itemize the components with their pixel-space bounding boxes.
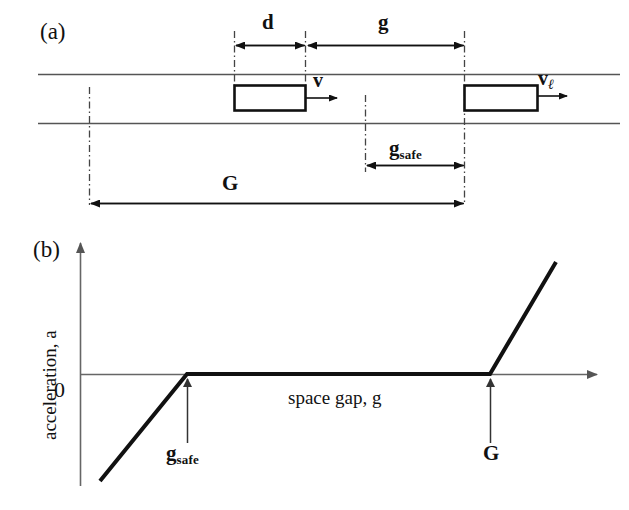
dimension-label-g-safe-base: g [389, 136, 400, 160]
marker-label-g-safe-subscript: safe [177, 452, 199, 467]
velocity-label-leader: vℓ [538, 68, 554, 92]
panel-b-axes [80, 243, 597, 486]
panel-b-tag: (b) [33, 238, 60, 261]
marker-label-g-safe: gsafe [166, 443, 199, 466]
dimension-label-g-safe: gsafe [389, 138, 422, 161]
dimension-label-G: G [222, 173, 238, 194]
velocity-label-leader-base: v [538, 67, 548, 89]
leader-vehicle [465, 86, 538, 111]
x-axis-label: space gap, g [288, 388, 381, 407]
panel-a-dimension-arrows [91, 46, 464, 204]
car-following-figure: (a) d g gsafe G v vℓ (b) acceleration, a… [0, 0, 629, 510]
velocity-label-leader-subscript: ℓ [548, 77, 554, 92]
panel-a-tag: (a) [40, 20, 66, 43]
panel-a-vehicles [235, 86, 568, 111]
follower-vehicle [235, 86, 306, 111]
marker-label-G: G [483, 443, 499, 464]
panel-a-dash-dot-guides [90, 31, 465, 205]
y-axis-zero-tick-label: 0 [54, 379, 65, 401]
velocity-label-follower: v [313, 70, 323, 90]
dimension-label-g-safe-subscript: safe [400, 147, 422, 162]
dimension-label-g: g [378, 12, 389, 33]
dimension-label-d: d [262, 12, 274, 33]
marker-label-g-safe-base: g [166, 441, 177, 465]
